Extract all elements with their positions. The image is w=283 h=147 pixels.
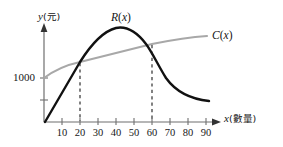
x-axis [44, 119, 221, 126]
cost-curve-label: C(x) [212, 30, 232, 42]
cost-curve-label-arg: (x) [220, 29, 233, 41]
chart-figure: y(元) x(數量) 1000 R(x) C(x) 10 20 30 40 50… [0, 0, 283, 147]
x-tick-label-50: 50 [125, 128, 143, 139]
revenue-curve-label-var: R [111, 11, 118, 23]
revenue-curve-label: R(x) [111, 12, 131, 24]
x-tick-label-90: 90 [197, 128, 215, 139]
y-value-label-1000: 1000 [13, 72, 35, 83]
x-axis-label: x(數量) [224, 113, 256, 124]
x-tick-label-10: 10 [53, 128, 71, 139]
cost-curve-label-var: C [212, 29, 220, 41]
cost-curve [44, 36, 207, 78]
x-axis-label-unit: (數量) [229, 113, 256, 124]
revenue-curve [45, 28, 209, 122]
revenue-curve-label-arg: (x) [118, 11, 131, 23]
x-tick-label-80: 80 [179, 128, 197, 139]
y-axis [41, 23, 48, 122]
x-tick-label-40: 40 [107, 128, 125, 139]
y-axis-label: y(元) [38, 11, 60, 22]
x-tick-label-70: 70 [161, 128, 179, 139]
x-tick-label-30: 30 [89, 128, 107, 139]
x-tick-label-20: 20 [71, 128, 89, 139]
y-axis-label-unit: (元) [43, 11, 60, 22]
chart-plot-area [0, 0, 283, 147]
x-tick-label-60: 60 [143, 128, 161, 139]
